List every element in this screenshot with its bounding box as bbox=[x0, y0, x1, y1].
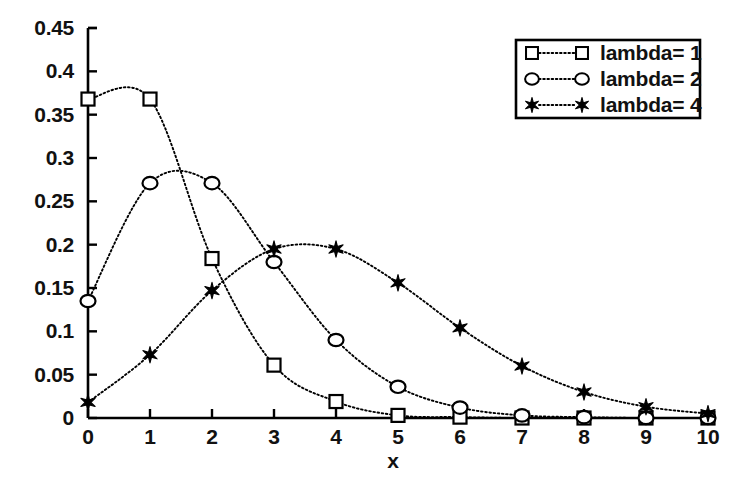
y-tick-label: 0.4 bbox=[0, 59, 74, 83]
series-line bbox=[88, 87, 708, 418]
y-tick-label: 0.15 bbox=[0, 276, 74, 300]
data-point-marker bbox=[515, 358, 529, 374]
data-point-marker bbox=[82, 93, 95, 106]
data-point-marker bbox=[392, 409, 405, 422]
x-tick-label: 4 bbox=[330, 425, 341, 449]
x-tick-label: 1 bbox=[144, 425, 155, 449]
x-tick-label: 10 bbox=[697, 425, 720, 449]
x-tick-label: 0 bbox=[82, 425, 93, 449]
y-tick-label: 0.25 bbox=[0, 189, 74, 213]
x-tick-label: 3 bbox=[268, 425, 279, 449]
data-point-marker bbox=[143, 177, 158, 189]
data-point-marker bbox=[391, 275, 405, 291]
y-tick-label: 0.3 bbox=[0, 146, 74, 170]
data-point-marker bbox=[515, 409, 530, 421]
legend-sample-marker bbox=[576, 47, 588, 59]
x-tick-label: 7 bbox=[516, 425, 527, 449]
data-point-marker bbox=[577, 384, 591, 400]
legend-sample-marker bbox=[526, 47, 538, 59]
legend-sample-marker bbox=[575, 73, 589, 84]
data-series-layer bbox=[81, 87, 716, 424]
data-point-marker bbox=[205, 282, 219, 298]
x-tick-label: 2 bbox=[206, 425, 217, 449]
data-point-marker bbox=[453, 320, 467, 336]
data-point-marker bbox=[81, 295, 96, 307]
series-3 bbox=[81, 241, 715, 422]
data-point-marker bbox=[144, 93, 157, 106]
y-tick-label: 0.1 bbox=[0, 319, 74, 343]
legend-sample-marker bbox=[525, 73, 539, 84]
x-tick-label: 6 bbox=[454, 425, 465, 449]
series-1 bbox=[82, 87, 715, 424]
x-tick-label: 9 bbox=[640, 425, 651, 449]
x-axis-title: x bbox=[387, 449, 399, 473]
data-point-marker bbox=[329, 334, 344, 346]
y-tick-label: 0.45 bbox=[0, 16, 74, 40]
y-tick-label: 0.05 bbox=[0, 363, 74, 387]
x-tick-label: 5 bbox=[392, 425, 403, 449]
data-point-marker bbox=[268, 359, 281, 372]
legend-label-2: lambda= 2 bbox=[600, 67, 702, 91]
data-point-marker bbox=[577, 411, 592, 423]
legend-label-1: lambda= 1 bbox=[600, 41, 702, 65]
data-point-marker bbox=[81, 394, 95, 410]
data-point-marker bbox=[205, 177, 220, 189]
series-2 bbox=[81, 171, 716, 424]
data-point-marker bbox=[330, 395, 343, 408]
x-tick-label: 8 bbox=[578, 425, 589, 449]
legend-label-3: lambda= 4 bbox=[600, 93, 702, 117]
data-point-marker bbox=[329, 241, 343, 257]
data-point-marker bbox=[391, 381, 406, 393]
data-point-marker bbox=[206, 252, 219, 265]
data-point-marker bbox=[453, 401, 468, 413]
y-tick-label: 0.2 bbox=[0, 233, 74, 257]
y-tick-label: 0.35 bbox=[0, 103, 74, 127]
y-tick-label: 0 bbox=[0, 406, 74, 430]
poisson-pmf-figure: 00.050.10.150.20.250.30.350.40.45 012345… bbox=[0, 0, 756, 487]
